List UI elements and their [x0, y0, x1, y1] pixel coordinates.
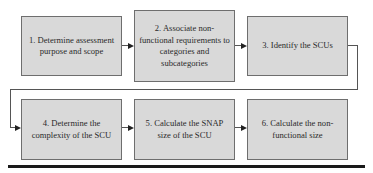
step-3-label: 3. Identify the SCUs: [262, 40, 333, 52]
step-5-label: 5. Calculate the SNAP size of the SCU: [139, 118, 230, 141]
step-6-label: 6. Calculate the non-functional size: [252, 118, 343, 141]
step-2-box: 2. Associate non-functional requirements…: [134, 10, 235, 82]
step-6-box: 6. Calculate the non-functional size: [247, 99, 348, 160]
connector-3-4-c: [10, 89, 358, 90]
step-4-box: 4. Determine the complexity of the SCU: [21, 99, 122, 160]
connector-3-4-b: [357, 45, 358, 90]
step-4-label: 4. Determine the complexity of the SCU: [26, 118, 117, 141]
bottom-rule-divider: [8, 165, 365, 168]
step-3-box: 3. Identify the SCUs: [247, 16, 348, 76]
step-2-label: 2. Associate non-functional requirements…: [139, 23, 230, 69]
step-1-box: 1. Determine assessment purpose and scop…: [21, 16, 122, 76]
step-1-label: 1. Determine assessment purpose and scop…: [26, 35, 117, 58]
connector-3-4-d: [10, 89, 11, 128]
step-5-box: 5. Calculate the SNAP size of the SCU: [134, 99, 235, 160]
